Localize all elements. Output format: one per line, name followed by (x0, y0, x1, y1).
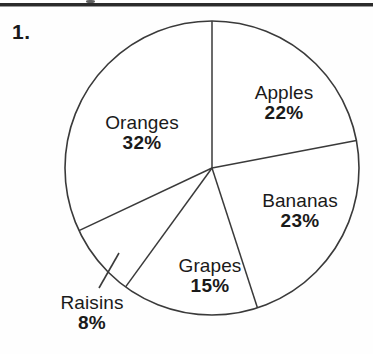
slice-label-apples: Apples 22% (228, 83, 340, 123)
slice-label-raisins: Raisins 8% (35, 293, 149, 333)
slice-label-grapes-name: Grapes (155, 256, 265, 276)
pie-chart: Apples 22% Oranges 32% Bananas 23% Grape… (0, 0, 373, 354)
worksheet-page: 1. Apples 22% Oranges 32% (0, 0, 373, 354)
slice-label-oranges-percent: 32% (80, 133, 204, 153)
slice-label-bananas-percent: 23% (240, 211, 360, 231)
slice-label-oranges: Oranges 32% (80, 113, 204, 153)
slice-label-bananas-name: Bananas (240, 191, 360, 211)
slice-label-bananas: Bananas 23% (240, 191, 360, 231)
slice-label-apples-name: Apples (228, 83, 340, 103)
slice-label-raisins-name: Raisins (35, 293, 149, 313)
slice-label-raisins-percent: 8% (35, 313, 149, 333)
slice-label-oranges-name: Oranges (80, 113, 204, 133)
slice-label-apples-percent: 22% (228, 103, 340, 123)
slice-label-grapes: Grapes 15% (155, 256, 265, 296)
slice-label-grapes-percent: 15% (155, 276, 265, 296)
